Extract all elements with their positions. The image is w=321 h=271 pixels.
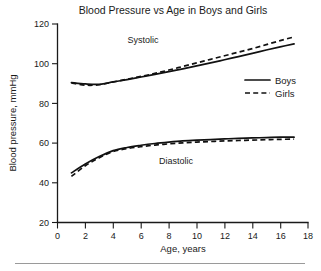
x-tick-label-16: 16 — [276, 231, 286, 241]
x-axis-tick-labels: 0 2 4 6 8 10 12 14 16 18 — [55, 231, 313, 241]
chart-title: Blood Pressure vs Age in Boys and Girls — [79, 4, 268, 16]
y-tick-label-20: 20 — [39, 218, 49, 228]
y-axis-tick-labels: 120 100 80 60 40 20 — [34, 19, 49, 228]
x-tick-label-2: 2 — [83, 231, 88, 241]
x-axis-ticks — [58, 223, 309, 229]
x-tick-label-8: 8 — [167, 231, 172, 241]
x-tick-label-12: 12 — [220, 231, 230, 241]
legend-label-boys: Boys — [275, 75, 296, 86]
y-tick-label-40: 40 — [39, 178, 49, 188]
x-tick-label-18: 18 — [303, 231, 313, 241]
blood-pressure-line-chart: Blood Pressure vs Age in Boys and Girls … — [0, 0, 321, 271]
chart-legend: Boys Girls — [245, 75, 296, 99]
x-tick-label-0: 0 — [55, 231, 60, 241]
x-tick-label-6: 6 — [139, 231, 144, 241]
y-tick-label-60: 60 — [39, 138, 49, 148]
x-tick-label-4: 4 — [111, 231, 116, 241]
annotation-systolic: Systolic — [127, 35, 159, 45]
y-tick-label-100: 100 — [34, 59, 49, 69]
y-axis-ticks — [52, 24, 58, 223]
x-tick-label-10: 10 — [192, 231, 202, 241]
x-axis-label: Age, years — [160, 243, 206, 254]
legend-label-girls: Girls — [275, 88, 295, 99]
series-line-boys-systolic — [71, 44, 294, 85]
y-tick-label-80: 80 — [39, 99, 49, 109]
series-line-girls-systolic — [71, 37, 294, 85]
y-axis-label: Blood pressure, mmHg — [7, 74, 18, 171]
x-tick-label-14: 14 — [248, 231, 258, 241]
chart-figure: Blood Pressure vs Age in Boys and Girls … — [0, 0, 321, 271]
y-tick-label-120: 120 — [34, 19, 49, 29]
annotation-diastolic: Diastolic — [159, 156, 194, 166]
